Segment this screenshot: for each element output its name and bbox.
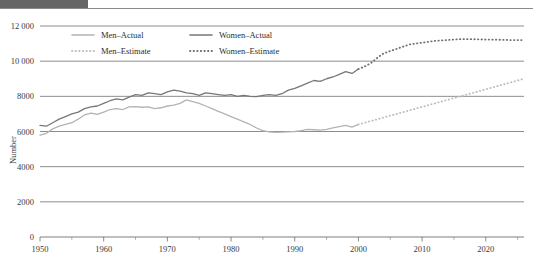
x-tick-label-2020: 2020	[477, 244, 494, 254]
y-tick-label-4000: 4000	[17, 162, 34, 172]
axis-ticks-group	[40, 237, 518, 242]
series-line-3	[358, 39, 524, 69]
chart-legend: Men–ActualWomen–ActualMen–EstimateWomen–…	[72, 30, 279, 56]
legend-label-2: Men–Estimate	[101, 46, 151, 56]
x-tick-label-1990: 1990	[286, 244, 303, 254]
y-tick-label-12000: 12 000	[11, 21, 34, 31]
gridlines-group	[40, 26, 524, 237]
x-tick-label-1980: 1980	[223, 244, 240, 254]
x-tick-label-1960: 1960	[95, 244, 112, 254]
y-tick-label-8000: 8000	[17, 91, 34, 101]
x-tick-label-2010: 2010	[414, 244, 431, 254]
series-line-1	[40, 69, 358, 126]
legend-label-0: Men–Actual	[101, 30, 144, 40]
line-chart: 0200040006000800010 00012 000 1950196019…	[0, 0, 533, 277]
y-axis-tick-labels: 0200040006000800010 00012 000	[11, 21, 34, 242]
figure-container: 0200040006000800010 00012 000 1950196019…	[0, 0, 533, 277]
series-line-0	[40, 100, 358, 135]
y-tick-label-0: 0	[30, 232, 34, 242]
series-line-2	[358, 79, 524, 125]
y-axis-title: Number	[8, 136, 18, 164]
y-tick-label-10000: 10 000	[11, 56, 34, 66]
x-tick-label-2000: 2000	[350, 244, 367, 254]
legend-label-1: Women–Actual	[219, 30, 273, 40]
y-tick-label-2000: 2000	[17, 197, 34, 207]
x-tick-label-1950: 1950	[32, 244, 49, 254]
x-axis-tick-labels: 19501960197019801990200020102020	[32, 244, 495, 254]
y-tick-label-6000: 6000	[17, 127, 34, 137]
x-tick-label-1970: 1970	[159, 244, 176, 254]
legend-label-3: Women–Estimate	[219, 46, 279, 56]
